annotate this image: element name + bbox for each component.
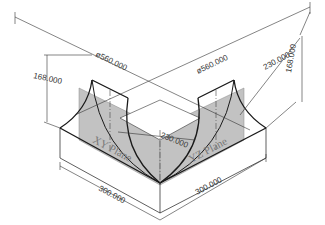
isometric-drawing: ø560.000 ø560.000 168.000 168.000 230.00… [0, 0, 325, 225]
height-label-left: 168.000 [33, 71, 64, 86]
diameter-label-left: ø560.000 [94, 50, 129, 73]
diameter-label-right: ø560.000 [195, 53, 230, 76]
width-label-right: 300.000 [194, 175, 224, 197]
